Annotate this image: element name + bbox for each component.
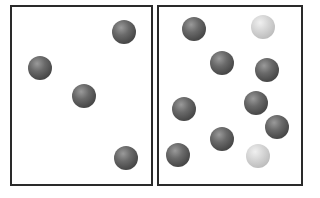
dark-particle	[244, 91, 268, 115]
dark-particle	[210, 51, 234, 75]
dark-particle	[265, 115, 289, 139]
dark-particle	[28, 56, 52, 80]
dark-particle	[114, 146, 138, 170]
dark-particle	[166, 143, 190, 167]
dark-particle	[72, 84, 96, 108]
dark-particle	[182, 17, 206, 41]
dark-particle	[210, 127, 234, 151]
dark-particle	[255, 58, 279, 82]
dark-particle	[112, 20, 136, 44]
light-particle	[246, 144, 270, 168]
light-particle	[251, 15, 275, 39]
dark-particle	[172, 97, 196, 121]
